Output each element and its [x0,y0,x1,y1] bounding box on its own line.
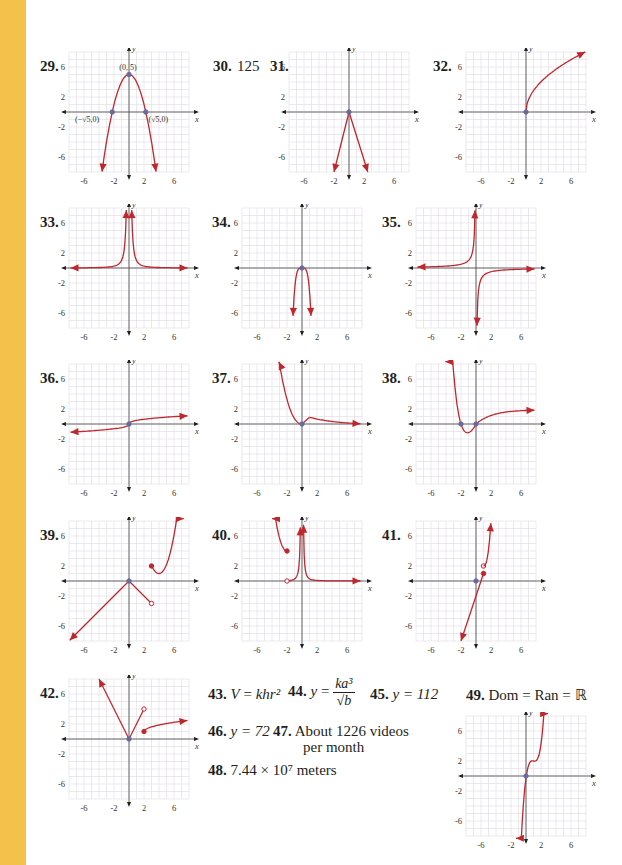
svg-text:6: 6 [408,531,412,541]
graph-39: xy-6-22662-2-6 [55,517,205,675]
svg-text:2: 2 [408,248,412,258]
graph-37: xy-6-22662-2-6 [228,360,378,518]
svg-text:y: y [131,675,136,680]
svg-text:6: 6 [234,374,238,384]
accent-strip [0,0,26,865]
svg-text:-6: -6 [253,645,260,655]
svg-text:2: 2 [458,756,462,766]
svg-text:6: 6 [172,488,176,498]
svg-text:6: 6 [172,332,176,342]
svg-text:-2: -2 [110,332,117,342]
svg-text:2: 2 [61,404,65,414]
svg-text:-2: -2 [231,591,238,601]
svg-text:6: 6 [345,332,349,342]
svg-text:2: 2 [315,332,319,342]
svg-text:2: 2 [61,561,65,571]
svg-text:-2: -2 [110,645,117,655]
svg-text:2: 2 [489,332,493,342]
svg-text:6: 6 [408,374,412,384]
problem-number-46: 46. [208,723,227,739]
svg-text:y: y [304,204,309,209]
svg-text:-6: -6 [80,488,87,498]
svg-text:6: 6 [569,176,573,186]
svg-text:-2: -2 [457,332,464,342]
fraction: ka³√b [333,676,354,709]
svg-text:2: 2 [539,840,543,850]
svg-text:-6: -6 [58,152,65,162]
problem-number-47: 47. [273,723,292,739]
svg-text:2: 2 [61,719,65,729]
svg-text:6: 6 [281,62,285,72]
svg-text:-6: -6 [231,621,238,631]
svg-text:-2: -2 [58,278,65,288]
svg-text:6: 6 [519,488,523,498]
svg-text:-6: -6 [58,464,65,474]
coordinate-grid: xy-6-22662-2-6 [275,48,425,202]
svg-text:-2: -2 [507,176,514,186]
svg-text:-6: -6 [80,176,87,186]
svg-text:2: 2 [234,248,238,258]
answer-49: 49. Dom = Ran = ℝ [466,686,587,704]
svg-text:6: 6 [234,218,238,228]
svg-text:x: x [194,741,199,751]
graph-29: xy-6-22662-2-6(0, 5)(−√5,0)(√5,0) [55,48,205,206]
answer-30: 125 [237,58,260,75]
svg-text:2: 2 [408,404,412,414]
svg-text:y: y [131,360,136,365]
svg-text:x: x [194,270,199,280]
svg-text:y: y [304,517,309,522]
coordinate-grid: xy-6-22662-2-6 [452,48,602,202]
svg-text:(−√5,0): (−√5,0) [75,115,100,124]
svg-text:(√5,0): (√5,0) [149,115,169,124]
svg-text:2: 2 [362,176,366,186]
svg-text:-2: -2 [110,803,117,813]
graph-42: xy-6-22662-2-6 [55,675,205,833]
graph-49: xy-6-22662-2-6 [452,712,602,865]
svg-text:2: 2 [315,488,319,498]
svg-text:-6: -6 [253,488,260,498]
svg-text:6: 6 [569,840,573,850]
svg-text:-6: -6 [58,308,65,318]
svg-text:-6: -6 [231,308,238,318]
graph-31: xy-6-22662-2-6 [275,48,425,206]
svg-text:-6: -6 [58,779,65,789]
coordinate-grid: xy-6-22662-2-6 [55,675,205,829]
problem-number-30: 30. [213,58,232,75]
svg-text:-2: -2 [405,434,412,444]
svg-text:2: 2 [234,561,238,571]
coordinate-grid: xy-6-22662-2-6 [55,517,205,671]
svg-text:-2: -2 [457,645,464,655]
svg-text:6: 6 [345,645,349,655]
svg-text:x: x [194,114,199,124]
svg-text:x: x [367,426,372,436]
graph-41: xy-6-22662-2-6 [402,517,552,675]
svg-text:-6: -6 [477,176,484,186]
problem-number-43: 43. [208,686,227,702]
svg-text:-2: -2 [110,176,117,186]
svg-text:y: y [131,517,136,522]
graph-40: xy-6-22662-2-6 [228,517,378,675]
problem-number-41: 41. [382,527,401,544]
svg-text:6: 6 [234,531,238,541]
svg-text:y: y [528,48,533,53]
svg-text:-2: -2 [283,332,290,342]
svg-text:x: x [194,426,199,436]
svg-text:6: 6 [519,645,523,655]
svg-text:2: 2 [142,803,146,813]
svg-text:-2: -2 [330,176,337,186]
svg-text:6: 6 [172,803,176,813]
svg-text:-2: -2 [58,122,65,132]
svg-text:x: x [414,114,419,124]
svg-text:y: y [478,517,483,522]
graph-36: xy-6-22662-2-6 [55,360,205,518]
svg-text:-2: -2 [58,591,65,601]
svg-text:-6: -6 [231,464,238,474]
coordinate-grid: xy-6-22662-2-6 [402,517,552,671]
svg-text:-2: -2 [283,645,290,655]
problem-number-35: 35. [382,214,401,231]
svg-text:-6: -6 [427,488,434,498]
svg-text:-6: -6 [427,332,434,342]
svg-text:y: y [304,360,309,365]
svg-text:-6: -6 [80,332,87,342]
svg-text:-6: -6 [477,840,484,850]
